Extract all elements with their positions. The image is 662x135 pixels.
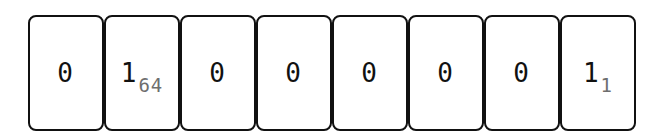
bit-value: 1 1 [583, 60, 613, 86]
bit-cell-2: 1 64 [104, 15, 180, 131]
bit-value: 0 [361, 60, 379, 86]
bit-cell-6: 0 [408, 15, 484, 131]
bit-value: 0 [513, 60, 531, 86]
bit-digit: 1 [583, 60, 599, 86]
bit-cell-1: 0 [28, 15, 104, 131]
bit-cell-7: 0 [484, 15, 560, 131]
bit-value: 0 [57, 60, 75, 86]
bit-value: 0 [437, 60, 455, 86]
bit-digit: 0 [285, 60, 301, 86]
bit-value: 1 64 [121, 60, 164, 86]
bit-digit: 0 [437, 60, 453, 86]
bit-digit: 0 [513, 60, 529, 86]
bit-value: 0 [285, 60, 303, 86]
bit-cell-3: 0 [180, 15, 256, 131]
bit-cell-5: 0 [332, 15, 408, 131]
bit-weight-subscript: 1 [601, 76, 613, 95]
bit-digit: 1 [121, 60, 137, 86]
bit-digit: 0 [209, 60, 225, 86]
bit-weight-subscript: 64 [138, 76, 163, 95]
bit-cell-4: 0 [256, 15, 332, 131]
bit-value: 0 [209, 60, 227, 86]
bit-digit: 0 [57, 60, 73, 86]
bit-cell-8: 1 1 [560, 15, 636, 131]
bit-digit: 0 [361, 60, 377, 86]
bit-cell-row: 0 1 64 0 0 0 0 0 [28, 15, 636, 131]
